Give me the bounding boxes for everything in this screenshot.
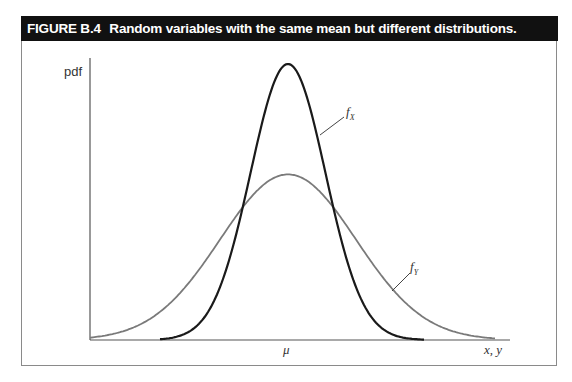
x-axis-label: x, y (483, 342, 502, 357)
fx-label: fX (346, 104, 356, 122)
fx-leader-line (320, 117, 344, 135)
mean-tick-label: μ (282, 342, 290, 357)
fy-leader-line (392, 273, 410, 291)
fy-curve (90, 174, 495, 338)
y-axis-label: pdf (64, 64, 82, 79)
fx-curve (160, 64, 424, 340)
fy-label: fY (410, 259, 420, 277)
chart-plot: pdf x, y μ fX fY (0, 0, 572, 382)
